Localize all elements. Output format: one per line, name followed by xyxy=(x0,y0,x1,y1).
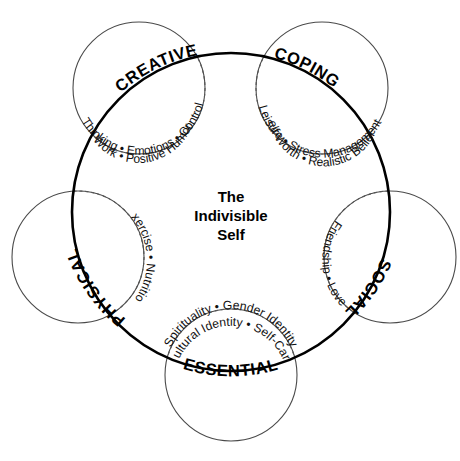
indivisible-self-diagram: CREATIVE COPING SOCIAL ESSENTIAL PHYSICA… xyxy=(0,0,460,461)
center-title: The Indivisible Self xyxy=(194,188,267,243)
sector-label-creative: CREATIVE xyxy=(111,40,199,95)
sector-label-physical: PHYSICAL xyxy=(62,246,128,330)
center-title-line-2: Indivisible xyxy=(194,207,267,224)
sector-label-social: SOCIAL xyxy=(342,257,395,323)
wheel-graphic: CREATIVE COPING SOCIAL ESSENTIAL PHYSICA… xyxy=(0,0,460,461)
center-title-line-3: Self xyxy=(217,226,246,243)
sector-items-coping-inner: Self-Worth • Realistic Beliefs xyxy=(0,0,378,169)
sector-items-creative-inner: Work • Positive Humor xyxy=(91,121,195,165)
center-title-line-1: The xyxy=(218,188,245,205)
sector-label-coping: COPING xyxy=(273,43,344,90)
sector-label-essential: ESSENTIAL xyxy=(182,354,280,379)
sector-items-social-outer: Friendship • Love xyxy=(319,218,350,309)
